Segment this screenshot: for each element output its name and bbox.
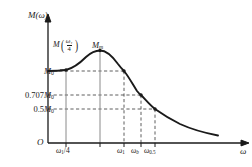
axes-lines bbox=[45, 14, 249, 146]
fraction-denominator: 4 bbox=[67, 45, 72, 53]
right-paren-glyph: ) bbox=[75, 40, 78, 49]
point-omega1 bbox=[122, 69, 125, 72]
magnitude-response-curve bbox=[48, 51, 218, 136]
x-tick-label-omega-b: ωb bbox=[131, 147, 139, 155]
x-tick-label-omega1: ω1 bbox=[117, 147, 125, 155]
x-tick-w1-sub: 1 bbox=[122, 149, 125, 155]
point-omega-b bbox=[139, 93, 142, 96]
origin-label: O bbox=[37, 138, 44, 147]
x-tick-w14-suffix: /4 bbox=[64, 146, 70, 155]
y-tick-0707-prefix: 0.707 bbox=[25, 90, 44, 100]
y-tick-label-05-m0: 0.5M0 bbox=[33, 105, 54, 115]
point-omega-05 bbox=[153, 107, 156, 110]
fraction-omega1-over-4: ω₁4 bbox=[65, 38, 74, 52]
y-tick-05-prefix: 0.5 bbox=[33, 104, 44, 114]
y-tick-label-m0: M0 bbox=[44, 67, 54, 77]
annotation-m-omega1-over-4: M(ω₁4) bbox=[53, 38, 79, 52]
ann-mpeak-sub: m bbox=[99, 44, 103, 50]
x-tick-label-omega1-over-4: ω1/4 bbox=[56, 147, 70, 155]
y-tick-0707-sub: 0 bbox=[51, 94, 54, 100]
y-tick-m0-sub: 0 bbox=[51, 70, 54, 76]
x-tick-label-omega-05: ω0.5 bbox=[144, 147, 156, 155]
horizontal-guide-lines bbox=[48, 71, 155, 109]
y-axis-label: M(ω) bbox=[28, 11, 48, 20]
annotation-m-peak: Mm bbox=[92, 41, 103, 51]
x-axis-label: ω bbox=[240, 147, 246, 156]
y-tick-05-sub: 0 bbox=[51, 108, 54, 114]
x-tick-wb-sub: b bbox=[136, 149, 139, 155]
left-paren-glyph: ( bbox=[61, 40, 64, 49]
ann-m-base: M bbox=[53, 40, 60, 49]
y-tick-label-0707-m0: 0.707M0 bbox=[25, 91, 54, 101]
frequency-response-figure: M(ω) O ω M0 0.707M0 0.5M0 ω1/4 ω1 ωb ω0.… bbox=[0, 0, 252, 167]
x-tick-w05-sub: 0.5 bbox=[149, 149, 155, 155]
curve-marked-points bbox=[64, 49, 156, 111]
